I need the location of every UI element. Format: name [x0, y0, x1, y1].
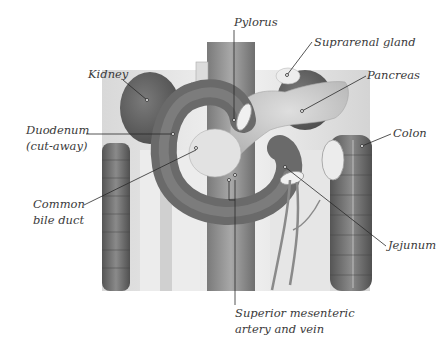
label-pylorus: Pylorus	[234, 14, 278, 30]
label-colon: Colon	[393, 125, 427, 141]
pancreas-head	[189, 129, 241, 177]
label-superior-mesenteric: Superior mesenteric artery and vein	[235, 305, 355, 337]
label-jejunum: Jejunum	[388, 237, 436, 253]
label-superior-mesenteric-line2: artery and vein	[235, 321, 355, 337]
label-common-bile-duct: Common bile duct	[33, 196, 85, 228]
label-duodenum: Duodenum (cut-away)	[26, 122, 89, 154]
label-pancreas: Pancreas	[367, 67, 420, 83]
label-duodenum-line1: Duodenum	[26, 122, 89, 138]
label-kidney: Kidney	[88, 66, 128, 82]
anatomy-illustration	[0, 0, 446, 350]
label-common-bile-duct-line2: bile duct	[33, 212, 85, 228]
label-superior-mesenteric-line1: Superior mesenteric	[235, 305, 355, 321]
label-suprarenal-gland: Suprarenal gland	[314, 34, 416, 50]
label-duodenum-line2: (cut-away)	[26, 138, 89, 154]
colon-ascending	[102, 143, 130, 291]
label-common-bile-duct-line1: Common	[33, 196, 85, 212]
